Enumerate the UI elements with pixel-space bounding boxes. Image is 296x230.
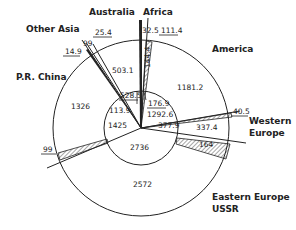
value-1181-2: 1181.2	[177, 83, 203, 92]
label-western-europe-1: Western	[249, 116, 291, 126]
label-china: P.R. China	[16, 72, 67, 82]
value-503-1: 503.1	[112, 66, 134, 75]
value-99-top: 99	[83, 39, 93, 48]
value-25-4: 25.4	[95, 28, 112, 37]
value-2572: 2572	[133, 180, 152, 189]
value-14-9: 14.9	[65, 47, 82, 56]
label-other-asia: Other Asia	[26, 24, 80, 34]
value-176-9: 176.9	[148, 99, 170, 108]
label-western-europe-2: Europe	[249, 128, 285, 138]
value-32-5: 32.5	[142, 26, 159, 35]
other-asia-dark-strip	[86, 49, 141, 128]
china-hatched-band	[58, 139, 108, 160]
value-337-4: 337.4	[196, 123, 218, 132]
value-528-5: 528.5	[120, 91, 142, 100]
value-144-4: 144.4	[143, 46, 152, 68]
value-1425: 1425	[108, 121, 127, 130]
label-eastern-europe-1: Eastern Europe	[212, 192, 290, 202]
label-america: America	[212, 44, 253, 54]
value-111-4: 111.4	[161, 26, 183, 35]
value-40-5: 40.5	[233, 107, 250, 116]
regional-pie-chart: Australia Africa Other Asia America P.R.…	[0, 0, 296, 230]
value-164: 164	[199, 140, 214, 149]
australia-spoke-3	[93, 44, 141, 128]
label-australia: Australia	[89, 7, 135, 17]
value-377-9: 377.9	[158, 121, 180, 130]
value-1326: 1326	[71, 102, 90, 111]
value-1292-6: 1292.6	[147, 110, 173, 119]
label-eastern-europe-2: USSR	[212, 204, 239, 214]
value-2736: 2736	[130, 143, 149, 152]
label-africa: Africa	[143, 7, 173, 17]
value-113-9: 113.9	[109, 106, 131, 115]
value-99-left: 99	[43, 145, 53, 154]
